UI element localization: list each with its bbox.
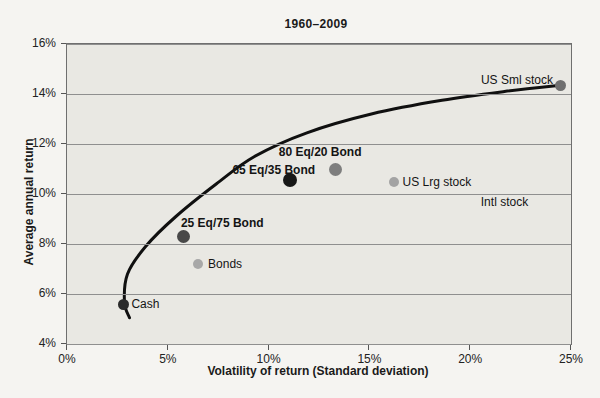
y-tick-label: 12% <box>32 136 56 150</box>
y-tick-mark <box>61 343 66 344</box>
point-us-lrg-stock <box>389 177 399 187</box>
point-label-bonds: Bonds <box>208 258 242 271</box>
gridline-8pct <box>67 244 571 245</box>
chart-title: 1960–2009 <box>285 17 348 31</box>
x-tick-label: 5% <box>159 352 176 366</box>
gridline-4pct <box>67 344 571 345</box>
risk-return-chart: 1960–2009 Average annual return Volatili… <box>0 0 600 398</box>
y-tick-mark <box>61 243 66 244</box>
x-tick-mark <box>268 345 269 350</box>
x-tick-mark <box>570 345 571 350</box>
x-tick-label: 0% <box>58 352 75 366</box>
annotation-intl-stock: Intl stock <box>481 195 528 209</box>
point-80-eq-20-bond <box>329 163 342 176</box>
y-tick-mark <box>61 293 66 294</box>
point-label-cash: Cash <box>131 298 159 311</box>
point-bonds <box>193 259 203 269</box>
point-label-us-lrg-stock: US Lrg stock <box>403 175 472 188</box>
x-tick-mark <box>469 345 470 350</box>
y-tick-label: 10% <box>32 186 56 200</box>
x-tick-mark <box>66 345 67 350</box>
y-tick-mark <box>61 93 66 94</box>
y-tick-mark <box>61 143 66 144</box>
x-tick-mark <box>368 345 369 350</box>
point-label-25-eq-75-bond: 25 Eq/75 Bond <box>181 216 264 229</box>
point-label-us-sml-stock: US Sml stock <box>481 74 553 87</box>
y-tick-label: 4% <box>39 336 56 350</box>
plot-area: CashBonds25 Eq/75 Bond65 Eq/35 Bond80 Eq… <box>66 43 572 345</box>
y-tick-label: 16% <box>32 36 56 50</box>
y-tick-label: 8% <box>39 236 56 250</box>
y-tick-label: 14% <box>32 86 56 100</box>
y-tick-mark <box>61 43 66 44</box>
y-tick-mark <box>61 193 66 194</box>
x-tick-label: 15% <box>357 352 381 366</box>
point-label-80-eq-20-bond: 80 Eq/20 Bond <box>279 146 362 159</box>
y-axis-title: Average annual return <box>22 139 36 266</box>
x-axis-title: Volatility of return (Standard deviation… <box>207 364 428 378</box>
gridline-16pct <box>67 44 571 45</box>
x-tick-label: 20% <box>458 352 482 366</box>
point-label-65-eq-35-bond: 65 Eq/35 Bond <box>232 164 315 177</box>
x-tick-mark <box>167 345 168 350</box>
gridline-6pct <box>67 294 571 295</box>
gridline-14pct <box>67 94 571 95</box>
x-tick-label: 10% <box>257 352 281 366</box>
y-tick-label: 6% <box>39 286 56 300</box>
x-tick-label: 25% <box>559 352 583 366</box>
point-cash <box>118 299 129 310</box>
